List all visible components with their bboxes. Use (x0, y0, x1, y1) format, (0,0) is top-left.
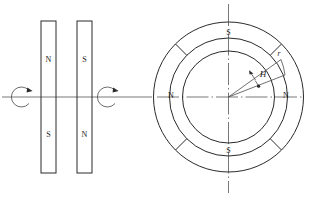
ring-divider-se (270, 139, 281, 150)
rotation-arrowhead-right (113, 87, 119, 92)
rotation-arrowhead-left (27, 87, 33, 92)
radius-r-label: r (278, 49, 281, 58)
field-angle-wedge (229, 60, 286, 98)
magnet-a-top-pole-label: N (46, 55, 52, 64)
field-ray-lower (229, 75, 286, 97)
field-arrow-a-head (249, 70, 253, 74)
magnet-b-bottom-pole-label: N (82, 130, 88, 139)
ring-divider-sw (176, 139, 187, 150)
field-wedge-arc (281, 60, 285, 76)
magnet-a-bottom-pole-label: S (46, 130, 50, 139)
right-panel-magnetized-ring: S S N N H r (154, 4, 304, 193)
ring-pole-bottom-label: S (226, 146, 230, 155)
ring-pole-left-label: N (168, 91, 174, 100)
field-direction-arrows (249, 70, 260, 88)
magnet-b-top-pole-label: S (82, 55, 86, 64)
ring-pole-top-label: S (226, 28, 230, 37)
physics-figure: N S S N (0, 0, 311, 197)
ring-pole-right-label: N (283, 91, 289, 100)
field-H-label: H (259, 69, 267, 79)
ring-divider-nw (176, 44, 187, 55)
left-panel-bar-magnets: N S S N (2, 21, 152, 173)
field-arrow-b-head (257, 85, 260, 88)
